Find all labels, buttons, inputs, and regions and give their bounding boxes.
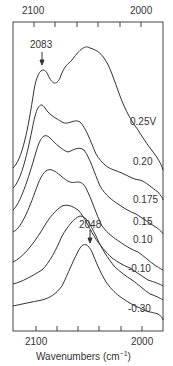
annotation-2048: 2048 [79, 220, 101, 230]
x-axis-label-exponent: −1 [120, 350, 128, 357]
series-label-0.175: 0.175 [133, 195, 158, 205]
top-ticks [34, 22, 141, 27]
bottom-tick-label-2100: 2100 [25, 337, 47, 347]
series-label-0.10: 0.10 [133, 235, 152, 245]
top-tick-label-2100: 2100 [22, 6, 44, 16]
series-label-neg0.10: -0.10 [128, 264, 151, 274]
annotation-2083: 2083 [30, 40, 52, 50]
top-tick-label-2000: 2000 [130, 6, 152, 16]
annotation-arrows [40, 52, 92, 243]
trace-0.25V [13, 47, 163, 170]
bottom-tick-label-2000: 2000 [131, 337, 153, 347]
series-label-neg0.30: -0.30 [128, 304, 151, 314]
x-axis-label-text: Wavenumbers (cm [36, 351, 120, 362]
bottom-ticks [36, 326, 142, 331]
series-label-0.20: 0.20 [133, 157, 152, 167]
series-label-0.15: 0.15 [133, 217, 152, 227]
x-axis-label: Wavenumbers (cm−1) [36, 350, 131, 362]
x-axis-label-close: ) [128, 351, 131, 362]
series-label-0.25V: 0.25V [130, 117, 156, 127]
spectra-traces [13, 47, 163, 320]
plot-frame [13, 22, 163, 331]
